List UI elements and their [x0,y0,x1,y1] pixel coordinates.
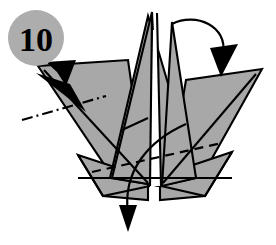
fold-arrow-top-right [172,20,238,77]
step-number-badge: 10 [8,10,64,66]
fold-arrow-bottom-head [119,205,137,232]
diagram-canvas: 10 [0,0,276,245]
step-badge-number: 10 [19,21,53,58]
origami-step-diagram: 10 [0,0,276,245]
